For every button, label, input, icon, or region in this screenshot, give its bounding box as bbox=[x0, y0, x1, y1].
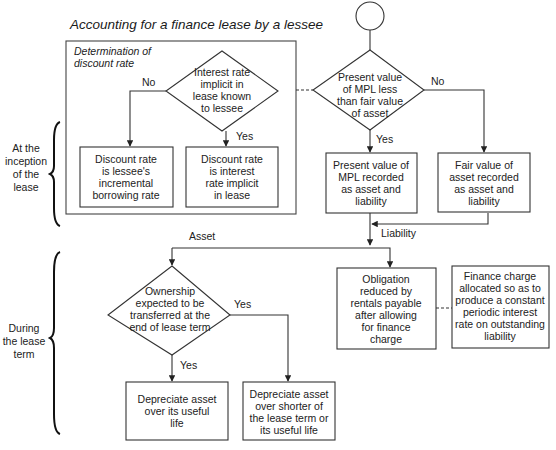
decision-rate-known: Interest rate implicit in lease known to… bbox=[166, 51, 278, 131]
node-text-line: Ownership bbox=[145, 285, 195, 297]
inception-label-line: of the bbox=[13, 168, 39, 180]
node-text-line: Interest rate bbox=[194, 66, 250, 78]
start-terminator bbox=[356, 2, 384, 30]
node-text-line: periodic interest bbox=[463, 306, 537, 318]
inception-label-line: lease bbox=[13, 181, 38, 193]
node-text-line: over its useful bbox=[145, 405, 210, 417]
during-label-line: term bbox=[14, 348, 35, 360]
node-text-line: liability bbox=[484, 330, 516, 342]
node-text-line: Discount rate bbox=[201, 153, 263, 165]
inception-label-line: inception bbox=[5, 155, 47, 167]
connector-fair-to-liability bbox=[372, 213, 488, 224]
node-text-line: Discount rate bbox=[95, 153, 157, 165]
during-term-label: During the lease term bbox=[3, 322, 46, 360]
node-text-line: rate on outstanding bbox=[455, 318, 545, 330]
node-text-line: Depreciate asset bbox=[250, 388, 329, 400]
edge-label-asset: Asset bbox=[189, 230, 215, 242]
node-text-line: rate implicit bbox=[205, 177, 258, 189]
during-term-brace bbox=[50, 252, 60, 434]
node-text-line: to lessee bbox=[201, 102, 243, 114]
node-text-line: of MPL less bbox=[343, 83, 397, 95]
group-label-line-1: Determination of bbox=[74, 45, 152, 57]
node-text-line: Depreciate asset bbox=[138, 393, 217, 405]
during-label-line: During bbox=[9, 322, 40, 334]
node-text-line: Fair value of bbox=[455, 159, 513, 171]
node-text-line: reduced by bbox=[360, 285, 413, 297]
connector-to-obligation bbox=[172, 248, 390, 267]
node-text-line: in lease bbox=[214, 189, 250, 201]
node-text-line: as asset and bbox=[341, 183, 401, 195]
diagram-title: Accounting for a finance lease by a less… bbox=[69, 17, 323, 32]
node-text-line: is lessee's bbox=[102, 165, 150, 177]
node-text-line: liability bbox=[355, 195, 387, 207]
node-text-line: liability bbox=[468, 195, 500, 207]
edge-label-rate-no: No bbox=[142, 76, 156, 88]
node-text-line: is interest bbox=[210, 165, 255, 177]
process-finance-charge: Finance charge allocated so as to produc… bbox=[452, 266, 549, 348]
edge-label-rate-yes: Yes bbox=[236, 130, 253, 142]
during-label-line: the lease bbox=[3, 335, 46, 347]
node-text-line: borrowing rate bbox=[92, 189, 159, 201]
node-text-line: for finance bbox=[361, 321, 410, 333]
edge-label-pv-yes: Yes bbox=[376, 133, 393, 145]
edge-label-pv-no: No bbox=[431, 75, 445, 87]
process-implicit-rate: Discount rate is interest rate implicit … bbox=[186, 147, 278, 207]
node-text-line: over shorter of bbox=[255, 400, 323, 412]
node-text-line: MPL recorded bbox=[338, 171, 404, 183]
node-text-line: end of lease term bbox=[129, 321, 210, 333]
node-text-line: incremental bbox=[99, 177, 153, 189]
node-text-line: Present value bbox=[338, 71, 402, 83]
inception-label-line: At the bbox=[12, 142, 40, 154]
node-text-line: produce a constant bbox=[455, 294, 544, 306]
inception-brace bbox=[50, 122, 60, 226]
decision-ownership-transfer: Ownership expected to be transferred at … bbox=[108, 266, 230, 355]
node-text-line: Present value of bbox=[333, 159, 409, 171]
node-text-line: after allowing bbox=[355, 309, 417, 321]
node-text-line: Obligation bbox=[362, 273, 409, 285]
process-depreciate-shorter: Depreciate asset over shorter of the lea… bbox=[243, 382, 335, 440]
process-pv-recorded: Present value of MPL recorded as asset a… bbox=[326, 153, 417, 213]
node-text-line: Finance charge bbox=[464, 270, 537, 282]
node-text-line: rentals payable bbox=[350, 297, 421, 309]
process-incremental-rate: Discount rate is lessee's incremental bo… bbox=[80, 147, 173, 207]
node-text-line: its useful life bbox=[260, 424, 318, 436]
node-text-line: expected to be bbox=[136, 297, 205, 309]
process-depreciate-useful-life: Depreciate asset over its useful life bbox=[126, 382, 228, 440]
node-text-line: than fair value bbox=[337, 95, 403, 107]
node-text-line: as asset and bbox=[454, 183, 514, 195]
process-fair-recorded: Fair value of asset recorded as asset an… bbox=[438, 153, 530, 212]
node-text-line: of asset bbox=[352, 107, 389, 119]
node-text-line: lease known bbox=[193, 90, 252, 102]
edge-label-liability: Liability bbox=[381, 227, 417, 239]
node-text-line: transferred at the bbox=[130, 309, 210, 321]
node-text-line: asset recorded bbox=[449, 171, 519, 183]
node-text-line: implicit in bbox=[200, 78, 243, 90]
node-text-line: charge bbox=[370, 333, 402, 345]
group-label-line-2: discount rate bbox=[74, 57, 134, 69]
flowchart: Accounting for a finance lease by a less… bbox=[0, 0, 556, 450]
inception-label: At the inception of the lease bbox=[5, 142, 47, 193]
process-obligation-reduced: Obligation reduced by rentals payable af… bbox=[337, 268, 436, 349]
connector-ownership-yes-right bbox=[230, 315, 288, 381]
node-text-line: allocated so as to bbox=[459, 282, 541, 294]
connector-pv-no bbox=[424, 90, 484, 152]
connector-rate-no bbox=[130, 91, 166, 146]
node-text-line: the lease term or bbox=[250, 412, 329, 424]
edge-label-ownership-yes-right: Yes bbox=[234, 298, 251, 310]
node-text-line: life bbox=[170, 417, 184, 429]
decision-pv-less-than-fair: Present value of MPL less than fair valu… bbox=[313, 50, 424, 130]
edge-label-ownership-yes-down: Yes bbox=[180, 359, 197, 371]
